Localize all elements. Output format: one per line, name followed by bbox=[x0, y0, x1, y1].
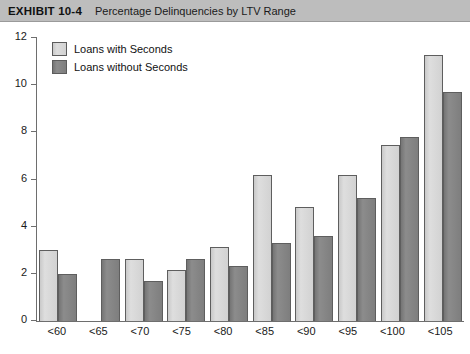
legend-item: Loans with Seconds bbox=[52, 42, 188, 56]
chart-legend: Loans with SecondsLoans without Seconds bbox=[52, 42, 188, 74]
bar bbox=[58, 274, 77, 321]
exhibit-title: Percentage Delinquencies by LTV Range bbox=[82, 5, 296, 17]
bar bbox=[295, 207, 314, 321]
bar-group bbox=[82, 38, 120, 321]
bar bbox=[443, 92, 462, 321]
x-axis-tick-label: <100 bbox=[380, 325, 405, 345]
bar bbox=[338, 175, 357, 321]
y-axis-tick-label: 8 bbox=[21, 124, 27, 136]
x-axis-tick-label: <70 bbox=[131, 325, 150, 345]
bar-group bbox=[295, 38, 333, 321]
exhibit-header: EXHIBIT 10-4 Percentage Delinquencies by… bbox=[0, 0, 470, 22]
y-axis-tick-label: 2 bbox=[21, 266, 27, 278]
bar-group bbox=[167, 38, 205, 321]
bar-group bbox=[253, 38, 291, 321]
x-axis-tick-label: <60 bbox=[47, 325, 66, 345]
x-axis-tick-label: <90 bbox=[297, 325, 316, 345]
exhibit-number: EXHIBIT 10-4 bbox=[0, 5, 82, 17]
bar-group bbox=[338, 38, 376, 321]
bar bbox=[381, 145, 400, 321]
exhibit-figure: EXHIBIT 10-4 Percentage Delinquencies by… bbox=[0, 0, 470, 354]
x-axis-tick-label: <105 bbox=[428, 325, 453, 345]
y-axis-tick-label: 12 bbox=[15, 30, 27, 42]
bar bbox=[314, 236, 333, 321]
bar bbox=[39, 250, 58, 321]
x-axis-labels: <60<65<70<75<80<85<90<95<100<105 bbox=[36, 325, 464, 345]
bar bbox=[272, 243, 291, 321]
bar bbox=[125, 259, 144, 321]
x-axis-tick-label: <85 bbox=[255, 325, 274, 345]
y-axis-tick-label: 4 bbox=[21, 219, 27, 231]
legend-swatch-icon bbox=[52, 60, 67, 74]
y-axis-tick-label: 6 bbox=[21, 172, 27, 184]
bar-group bbox=[381, 38, 419, 321]
legend-label: Loans with Seconds bbox=[74, 43, 172, 55]
legend-item: Loans without Seconds bbox=[52, 60, 188, 74]
bar bbox=[400, 137, 419, 321]
legend-label: Loans without Seconds bbox=[74, 61, 188, 73]
bar bbox=[167, 270, 186, 321]
bar bbox=[253, 175, 272, 321]
bar-group bbox=[125, 38, 163, 321]
bar bbox=[186, 259, 205, 321]
bar bbox=[424, 55, 443, 321]
x-axis-tick-label: <65 bbox=[89, 325, 108, 345]
bar bbox=[210, 247, 229, 321]
y-axis-tick-label: 0 bbox=[21, 313, 27, 325]
y-axis-tick-label: 10 bbox=[15, 77, 27, 89]
x-axis-tick-label: <80 bbox=[214, 325, 233, 345]
bar-group bbox=[210, 38, 248, 321]
bar-group bbox=[39, 38, 77, 321]
plot-area: 024681012 bbox=[36, 38, 464, 322]
bar bbox=[229, 266, 248, 321]
bar bbox=[101, 259, 120, 321]
x-axis-tick-label: <95 bbox=[339, 325, 358, 345]
bar bbox=[144, 281, 163, 321]
bars-layer bbox=[37, 38, 464, 321]
x-axis-tick-label: <75 bbox=[172, 325, 191, 345]
bar bbox=[357, 198, 376, 321]
legend-swatch-icon bbox=[52, 42, 67, 56]
bar-group bbox=[424, 38, 462, 321]
